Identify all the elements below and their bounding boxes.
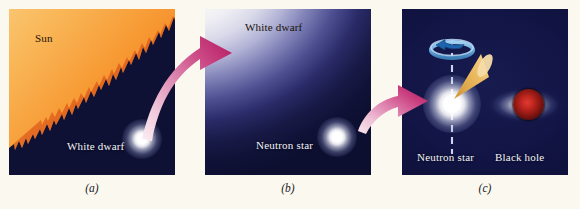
label-neutron-star: Neutron star: [417, 151, 474, 163]
caption-b: (b): [205, 182, 371, 194]
stellar-evolution-figure: Sun White dwarf White dwarf Neutron star: [0, 0, 580, 209]
panel-b-white-dwarf-neutron-star: White dwarf Neutron star: [205, 9, 371, 175]
caption-a: (a): [9, 182, 175, 194]
neutron-star-glow: [317, 117, 357, 157]
label-neutron-star: Neutron star: [256, 139, 313, 151]
label-black-hole: Black hole: [495, 151, 544, 163]
panel-a-sun-white-dwarf: Sun White dwarf: [9, 9, 175, 175]
caption-c: (c): [402, 182, 568, 194]
panel-c-neutron-star-black-hole: Neutron star Black hole: [402, 9, 568, 175]
white-dwarf-star: [122, 119, 162, 159]
label-white-dwarf: White dwarf: [245, 21, 302, 33]
label-white-dwarf: White dwarf: [67, 140, 124, 152]
label-sun: Sun: [35, 32, 53, 44]
